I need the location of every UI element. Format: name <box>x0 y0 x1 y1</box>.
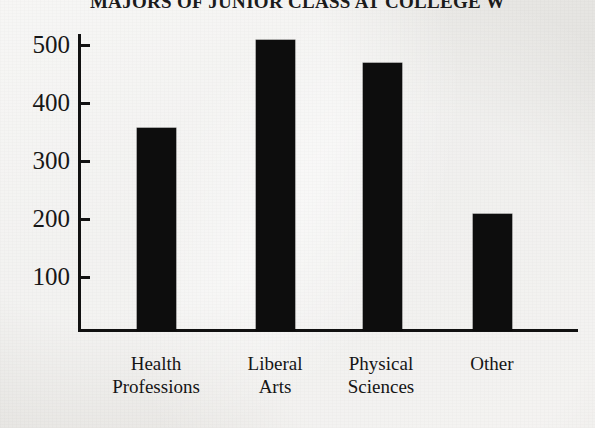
bar-other <box>473 214 512 330</box>
x-label-other: Other <box>432 352 552 375</box>
plot-area: 500 400 300 200 100 Health Professions L… <box>0 0 595 428</box>
y-tick-500 <box>78 44 90 47</box>
y-tick-label-100: 100 <box>8 264 70 289</box>
x-label-line-1: Other <box>432 352 552 375</box>
x-label-liberal-arts: Liberal Arts <box>215 352 335 398</box>
y-tick-400 <box>78 102 90 105</box>
y-tick-100 <box>78 276 90 279</box>
bar-liberal-arts <box>256 40 295 330</box>
y-tick-label-300: 300 <box>8 148 70 173</box>
x-label-line-1: Physical <box>321 352 441 375</box>
y-tick-label-500: 500 <box>8 32 70 57</box>
y-tick-label-200: 200 <box>8 206 70 231</box>
x-label-physical-sciences: Physical Sciences <box>321 352 441 398</box>
x-label-line-1: Liberal <box>215 352 335 375</box>
x-label-health-professions: Health Professions <box>96 352 216 398</box>
x-label-line-2: Sciences <box>321 375 441 398</box>
x-label-line-2: Arts <box>215 375 335 398</box>
bar-health-professions <box>137 128 176 330</box>
y-tick-label-400: 400 <box>8 90 70 115</box>
y-axis-line <box>78 34 81 332</box>
chart-page: MAJORS OF JUNIOR CLASS AT COLLEGE W 500 … <box>0 0 595 428</box>
x-label-line-1: Health <box>96 352 216 375</box>
x-label-line-2: Professions <box>96 375 216 398</box>
y-tick-300 <box>78 160 90 163</box>
bar-physical-sciences <box>363 63 402 330</box>
y-tick-200 <box>78 218 90 221</box>
